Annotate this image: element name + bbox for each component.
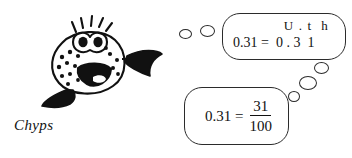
fraction-display: 31 100	[249, 99, 272, 134]
place-value-equation: 0.31 = 0 . 3 1	[231, 34, 335, 52]
fraction-speech-box: 0.31 = 31 100	[184, 87, 289, 145]
thought-dot-icon	[288, 91, 300, 102]
place-value-speech-box: U . t h 0.31 = 0 . 3 1	[222, 13, 346, 60]
fraction-equation-row: 0.31 = 31 100	[185, 88, 288, 144]
place-value-header: U . t h	[231, 18, 335, 34]
thought-dot-icon	[314, 62, 329, 74]
thought-dot-icon	[179, 29, 192, 39]
fraction-left-hand-side: 0.31 =	[205, 108, 243, 125]
thought-dot-icon	[299, 76, 317, 90]
chyps-fish-icon	[18, 10, 168, 115]
character-name-label: Chyps	[14, 117, 54, 134]
fraction-numerator: 31	[250, 99, 271, 116]
thought-dot-icon	[200, 25, 215, 37]
fraction-denominator: 100	[249, 116, 272, 134]
worksheet-canvas: Chyps U . t h 0.31 = 0 . 3 1 0.31 = 31 1…	[0, 0, 352, 158]
